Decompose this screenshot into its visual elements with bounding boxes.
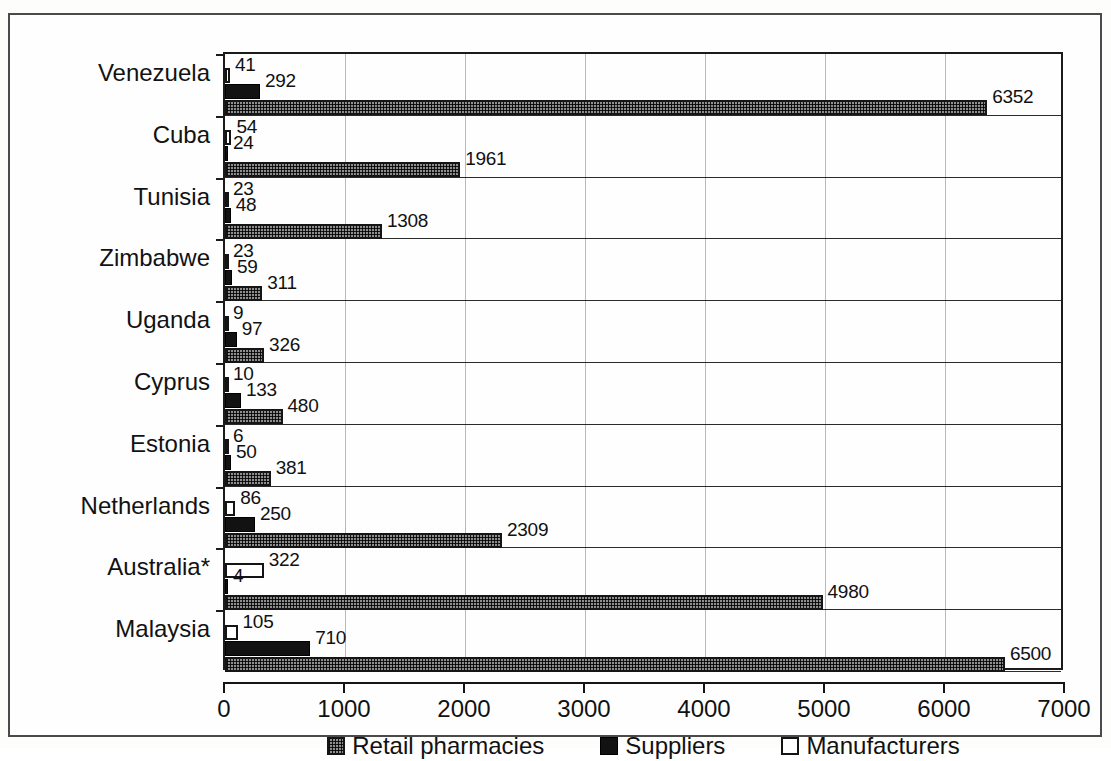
bar-value-label: 4980: [828, 582, 869, 601]
y-axis-label-uganda: Uganda: [126, 308, 210, 332]
x-axis-tick-3000: [583, 682, 585, 693]
bar-australia-supp: [225, 579, 228, 594]
bar-zimbabwe-retail: [225, 286, 262, 301]
figure-border: VenezuelaCubaTunisiaZimbabweUgandaCyprus…: [8, 13, 1102, 737]
bar-value-label: 710: [315, 628, 346, 647]
y-axis-tick: [216, 54, 225, 56]
x-axis-tick-4000: [703, 682, 705, 693]
bar-value-label: 2309: [507, 520, 548, 539]
bar-value-label: 1308: [387, 211, 428, 230]
bar-malaysia-retail: [225, 657, 1005, 672]
y-axis-label-netherlands: Netherlands: [81, 494, 210, 518]
x-axis-tick-1000: [343, 682, 345, 693]
bar-value-label: 292: [265, 71, 296, 90]
y-axis-label-estonia: Estonia: [130, 432, 210, 456]
bar-value-label: 50: [236, 442, 257, 461]
y-axis-tick: [216, 116, 225, 118]
y-axis-label-malaysia: Malaysia: [115, 617, 210, 641]
y-axis-label-cuba: Cuba: [153, 123, 210, 147]
bar-value-label: 86: [240, 488, 261, 507]
x-axis-tick-0: [223, 682, 225, 693]
chart-legend: Retail pharmaciesSuppliersManufacturers: [223, 731, 1064, 761]
bar-netherlands-manu: [225, 501, 235, 516]
x-axis-tick-label-0: 0: [217, 697, 230, 721]
bar-value-label: 41: [235, 55, 256, 74]
plot-area: 4129263525424196123481308235931199732610…: [223, 52, 1063, 670]
band-separator: [225, 300, 1061, 301]
bar-tunisia-supp: [225, 208, 231, 223]
band-separator: [225, 486, 1061, 487]
y-axis-tick: [216, 363, 225, 365]
legend-swatch-icon-manu: [781, 737, 799, 755]
bar-tunisia-manu: [225, 192, 229, 207]
y-axis-tick: [216, 301, 225, 303]
bar-malaysia-supp: [225, 641, 310, 656]
bar-value-label: 105: [243, 612, 274, 631]
x-axis-tick-label-1000: 1000: [317, 697, 370, 721]
x-axis-tick-5000: [823, 682, 825, 693]
bar-value-label: 326: [269, 335, 300, 354]
y-axis-label-tunisia: Tunisia: [134, 185, 210, 209]
bar-value-label: 4: [233, 566, 243, 585]
bar-value-label: 59: [237, 257, 258, 276]
bar-tunisia-retail: [225, 224, 382, 239]
x-axis-tick-label-6000: 6000: [917, 697, 970, 721]
bar-cyprus-manu: [225, 377, 229, 392]
x-axis-tick-label-5000: 5000: [797, 697, 850, 721]
legend-swatch-icon-supp: [600, 737, 618, 755]
band-separator: [225, 424, 1061, 425]
bar-venezuela-retail: [225, 100, 987, 115]
bar-value-label: 133: [246, 380, 277, 399]
bar-cuba-retail: [225, 162, 460, 177]
bar-cyprus-retail: [225, 409, 283, 424]
bar-netherlands-supp: [225, 517, 255, 532]
x-axis-line: [223, 682, 1064, 684]
y-axis-tick: [216, 425, 225, 427]
legend-item-manu: Manufacturers: [781, 734, 959, 758]
y-axis-tick: [216, 610, 225, 612]
bar-australia-manu: [225, 563, 264, 578]
bar-value-label: 6352: [992, 87, 1033, 106]
legend-label: Suppliers: [625, 734, 725, 758]
bar-zimbabwe-supp: [225, 270, 232, 285]
bar-uganda-manu: [225, 316, 229, 331]
bar-netherlands-retail: [225, 533, 502, 548]
legend-item-supp: Suppliers: [600, 734, 725, 758]
y-axis-tick: [216, 548, 225, 550]
bar-zimbabwe-manu: [225, 254, 229, 269]
bar-estonia-retail: [225, 471, 271, 486]
bar-venezuela-supp: [225, 84, 260, 99]
bar-value-label: 250: [260, 504, 291, 523]
legend-item-retail: Retail pharmacies: [327, 734, 544, 758]
bar-cuba-manu: [225, 130, 231, 145]
bar-malaysia-manu: [225, 625, 238, 640]
y-axis-tick: [216, 178, 225, 180]
y-axis-label-australia: Australia*: [107, 555, 210, 579]
y-axis-label-venezuela: Venezuela: [98, 61, 210, 85]
y-axis-category-labels: VenezuelaCubaTunisiaZimbabweUgandaCyprus…: [40, 52, 210, 670]
x-axis-tick-label-4000: 4000: [677, 697, 730, 721]
bar-australia-retail: [225, 595, 823, 610]
legend-label: Manufacturers: [806, 734, 959, 758]
bar-cuba-supp: [225, 146, 228, 161]
bar-cyprus-supp: [225, 393, 241, 408]
x-axis-tick-7000: [1063, 682, 1065, 693]
bar-uganda-supp: [225, 332, 237, 347]
bar-value-label: 381: [276, 458, 307, 477]
y-axis-tick: [216, 239, 225, 241]
y-axis-label-cyprus: Cyprus: [134, 370, 210, 394]
x-axis-tick-6000: [943, 682, 945, 693]
bar-estonia-supp: [225, 455, 231, 470]
bar-value-label: 48: [236, 195, 257, 214]
bar-value-label: 1961: [465, 149, 506, 168]
bar-value-label: 322: [269, 550, 300, 569]
bar-estonia-manu: [225, 439, 229, 454]
band-separator: [225, 362, 1061, 363]
bar-value-label: 480: [288, 396, 319, 415]
x-axis-tick-label-3000: 3000: [557, 697, 610, 721]
bar-uganda-retail: [225, 348, 264, 363]
y-axis-tick: [216, 487, 225, 489]
bar-venezuela-manu: [225, 68, 230, 83]
y-axis-label-zimbabwe: Zimbabwe: [99, 246, 210, 270]
legend-label: Retail pharmacies: [352, 734, 544, 758]
